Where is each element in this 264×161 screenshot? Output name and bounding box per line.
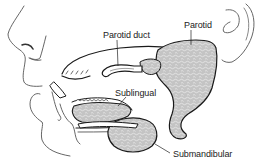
- chin-outline: [30, 93, 70, 156]
- label-sublingual: Sublingual: [115, 88, 156, 98]
- leader-parotid-duct: [117, 40, 118, 66]
- ear: [222, 4, 254, 62]
- parotid-duct: [102, 65, 142, 77]
- label-submandibular: Submandibular: [173, 149, 232, 159]
- ear-rim: [244, 8, 249, 40]
- parotid-accessory-lobe: [140, 59, 161, 75]
- palate-lower: [62, 76, 90, 79]
- palate-ridges: [66, 70, 88, 74]
- salivary-glands-diagram: [0, 0, 264, 161]
- face-profile: [8, 6, 80, 156]
- submandibular-gland: [78, 118, 157, 152]
- nose-outline: [8, 6, 42, 86]
- teeth: [76, 100, 108, 102]
- ear-inner: [223, 10, 239, 33]
- leader-submandibular: [155, 144, 170, 153]
- label-parotid: Parotid: [184, 20, 212, 30]
- upper-lip: [50, 82, 66, 98]
- label-parotid-duct: Parotid duct: [103, 30, 150, 40]
- nostril: [22, 44, 33, 49]
